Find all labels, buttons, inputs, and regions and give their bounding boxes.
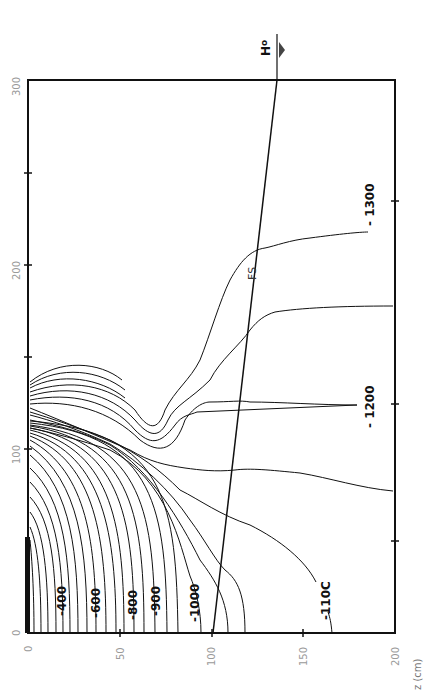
x-axis-title: z (cm) bbox=[412, 658, 423, 690]
y-tick-0: 0 bbox=[11, 630, 22, 636]
bottom-tick-labels: 0 50 100 150 200 bbox=[23, 646, 401, 666]
contour-label-800: -800 bbox=[126, 590, 140, 620]
left-tick-labels: 0 100 200 300 bbox=[11, 77, 22, 636]
y-tick-300: 300 bbox=[11, 77, 22, 96]
h0-label: Ho bbox=[259, 40, 273, 56]
y-tick-200: 200 bbox=[11, 261, 22, 280]
x-tick-50: 50 bbox=[115, 647, 126, 660]
contour-label-1000: -1000 bbox=[188, 584, 202, 622]
contour-label-1200: - 1200 bbox=[363, 385, 377, 428]
contour-chart: 0 100 200 300 0 50 100 150 200 z (cm) bbox=[0, 0, 424, 690]
contour-labels: -400 -600 -800 -900 -1000 -110C - 1200 -… bbox=[55, 183, 377, 622]
plot-frame bbox=[28, 80, 395, 633]
x-tick-100: 100 bbox=[206, 647, 217, 666]
contour-label-1100: -110C bbox=[319, 581, 333, 620]
x-tick-200: 200 bbox=[390, 647, 401, 666]
contour-label-400: -400 bbox=[55, 586, 69, 616]
y-tick-100: 100 bbox=[11, 445, 22, 464]
contour-label-1300: - 1300 bbox=[363, 183, 377, 226]
contour-lines bbox=[30, 232, 393, 633]
water-level-icon bbox=[279, 42, 285, 58]
x-tick-0: 0 bbox=[23, 646, 34, 652]
x-tick-150: 150 bbox=[298, 647, 309, 666]
fs-label: FS bbox=[246, 267, 259, 280]
contour-label-600: -600 bbox=[89, 588, 103, 618]
free-surface-line bbox=[213, 80, 277, 633]
contour-label-900: -900 bbox=[149, 586, 163, 616]
source-strip bbox=[25, 537, 30, 633]
